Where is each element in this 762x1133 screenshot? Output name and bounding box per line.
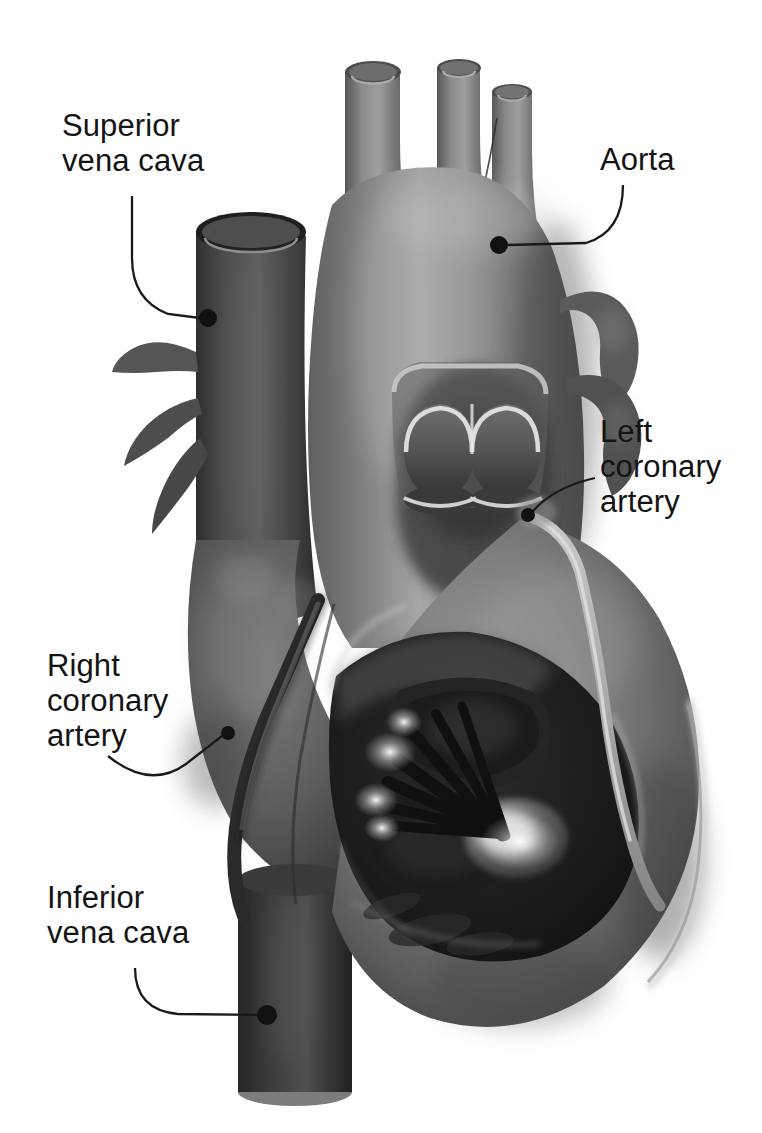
- label-aorta: Aorta: [600, 142, 675, 177]
- marker-left-coronary-artery: [521, 508, 535, 522]
- heart-anatomy-figure: Superior vena cava Aorta Left coronary a…: [0, 0, 762, 1133]
- label-right-coronary-artery: Right coronary artery: [47, 648, 168, 753]
- marker-aorta: [490, 236, 508, 254]
- label-left-coronary-artery: Left coronary artery: [600, 414, 721, 519]
- label-superior-vena-cava: Superior vena cava: [62, 108, 204, 178]
- leader-superior-vena-cava: [132, 196, 200, 318]
- aortic-valve: [392, 362, 548, 514]
- marker-inferior-vena-cava: [257, 1005, 277, 1025]
- label-inferior-vena-cava: Inferior vena cava: [47, 880, 189, 950]
- marker-right-coronary-artery: [221, 726, 235, 740]
- marker-superior-vena-cava: [199, 309, 217, 327]
